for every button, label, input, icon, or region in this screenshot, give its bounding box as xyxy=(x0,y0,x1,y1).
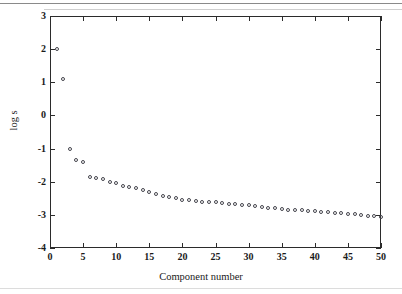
data-point-marker xyxy=(286,208,290,212)
data-point-marker xyxy=(214,200,218,204)
x-tick-mark-top xyxy=(381,16,382,21)
data-point-marker xyxy=(127,185,131,189)
y-axis-title: log s xyxy=(8,117,19,131)
x-tick-label: 45 xyxy=(333,251,363,262)
y-tick-label: -3 xyxy=(38,210,46,220)
data-point-marker xyxy=(220,201,224,205)
x-tick-label: 30 xyxy=(234,251,264,262)
data-point-marker xyxy=(55,47,59,51)
data-point-marker xyxy=(94,176,98,180)
y-tick-label: 3 xyxy=(41,11,46,21)
data-point-marker xyxy=(253,204,257,208)
x-tick-label: 50 xyxy=(366,251,396,262)
data-point-marker xyxy=(306,209,310,213)
y-tick-label: 0 xyxy=(41,110,46,120)
data-point-marker xyxy=(68,147,72,151)
data-point-marker xyxy=(280,207,284,211)
data-point-marker xyxy=(74,158,78,162)
x-tick-label: 20 xyxy=(167,251,197,262)
data-point-marker xyxy=(174,196,178,200)
y-tick-label: 1 xyxy=(41,77,46,87)
data-point-marker xyxy=(154,192,158,196)
x-tick-label: 15 xyxy=(134,251,164,262)
x-tick-label: 35 xyxy=(267,251,297,262)
data-point-marker xyxy=(121,184,125,188)
data-point-marker xyxy=(326,210,330,214)
data-point-marker xyxy=(247,203,251,207)
data-point-marker xyxy=(366,214,370,218)
x-tick-mark xyxy=(381,243,382,248)
data-point-marker xyxy=(61,77,65,81)
data-point-marker xyxy=(81,160,85,164)
data-point-marker xyxy=(134,186,138,190)
data-point-marker xyxy=(187,198,191,202)
data-point-marker xyxy=(141,188,145,192)
data-point-marker xyxy=(333,211,337,215)
data-point-marker xyxy=(88,175,92,179)
data-point-marker xyxy=(180,198,184,202)
x-tick-label: 10 xyxy=(101,251,131,262)
data-point-marker xyxy=(194,199,198,203)
data-point-marker xyxy=(233,202,237,206)
data-point-marker xyxy=(300,208,304,212)
y-tick-label: 2 xyxy=(41,44,46,54)
y-tick-label-wrap: 2 xyxy=(0,44,46,54)
y-tick-label-wrap: 1 xyxy=(0,77,46,87)
data-point-marker xyxy=(108,180,112,184)
data-point-marker xyxy=(379,215,383,219)
data-point-marker xyxy=(240,203,244,207)
data-point-marker xyxy=(313,209,317,213)
x-tick-label: 0 xyxy=(35,251,65,262)
data-point-marker xyxy=(114,181,118,185)
x-axis-title: Component number xyxy=(0,271,402,282)
x-tick-label: 40 xyxy=(300,251,330,262)
data-point-marker xyxy=(346,212,350,216)
data-point-marker xyxy=(293,208,297,212)
data-point-marker xyxy=(101,177,105,181)
plot-data-area xyxy=(50,16,381,248)
y-tick-label: -1 xyxy=(38,144,46,154)
data-point-marker xyxy=(260,205,264,209)
data-point-marker xyxy=(147,190,151,194)
y-tick-label-wrap: -2 xyxy=(0,177,46,187)
y-tick-mark-right xyxy=(376,248,381,249)
y-tick-label: -2 xyxy=(38,177,46,187)
data-point-marker xyxy=(273,206,277,210)
data-point-marker xyxy=(167,195,171,199)
data-point-marker xyxy=(359,213,363,217)
y-tick-label-wrap: -1 xyxy=(0,144,46,154)
y-tick-label-wrap: 3 xyxy=(0,11,46,21)
data-point-marker xyxy=(319,210,323,214)
data-point-marker xyxy=(266,206,270,210)
data-point-marker xyxy=(200,200,204,204)
y-tick-mark xyxy=(50,248,55,249)
y-tick-label-wrap: -3 xyxy=(0,210,46,220)
x-tick-label: 5 xyxy=(68,251,98,262)
data-point-marker xyxy=(161,194,165,198)
data-point-marker xyxy=(353,212,357,216)
data-point-marker xyxy=(372,214,376,218)
scatter-plot-figure: -4-3-2-10123 05101520253035404550 log s … xyxy=(0,0,402,294)
data-point-marker xyxy=(207,200,211,204)
data-point-marker xyxy=(339,211,343,215)
x-tick-label: 25 xyxy=(201,251,231,262)
data-point-marker xyxy=(227,202,231,206)
